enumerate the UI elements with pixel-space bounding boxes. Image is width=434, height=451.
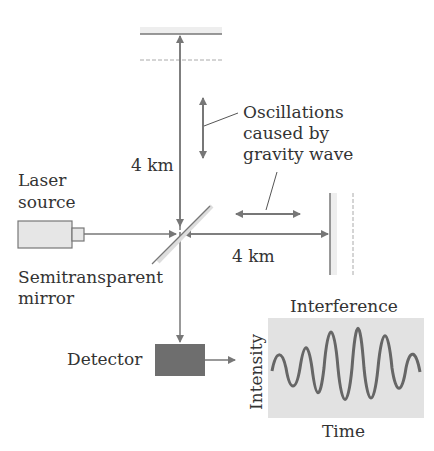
laser-label-line1: Laser — [18, 170, 67, 190]
oscillation-label-line2: caused by — [243, 123, 330, 143]
plot-title: Interference — [290, 296, 398, 316]
mirror-label-line2: mirror — [18, 288, 75, 308]
oscillation-label-line3: gravity wave — [243, 144, 353, 164]
detector-label: Detector — [67, 349, 143, 369]
right-mirror — [330, 193, 353, 275]
vertical-oscillation-arrow — [203, 98, 238, 158]
ligo-interferometer-diagram: 4 km Oscillations caused by gravity wave… — [0, 0, 434, 451]
semitransparent-mirror — [152, 206, 212, 264]
laser-label-line2: source — [18, 192, 76, 212]
plot-ylabel: Intensity — [246, 334, 266, 410]
oscillation-label-line1: Oscillations — [243, 102, 344, 122]
horizontal-arm-label: 4 km — [232, 246, 275, 266]
vertical-arm-label: 4 km — [131, 155, 174, 175]
plot-xlabel: Time — [322, 421, 365, 441]
laser-source — [18, 221, 84, 248]
interference-plot — [268, 318, 424, 418]
mirror-label-line1: Semitransparent — [18, 267, 163, 287]
top-mirror — [140, 27, 222, 60]
detector — [155, 344, 205, 376]
